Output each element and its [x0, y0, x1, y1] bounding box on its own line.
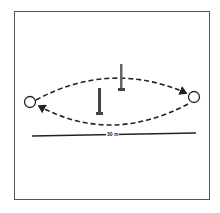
lower-path-arrow — [39, 104, 188, 125]
drill-diagram — [0, 0, 220, 213]
pole-low-icon — [96, 88, 103, 115]
right-cone-icon — [189, 92, 200, 103]
left-cone-icon — [25, 97, 36, 108]
upper-path-arrow — [36, 78, 186, 100]
distance-label: 30 m — [106, 131, 119, 137]
